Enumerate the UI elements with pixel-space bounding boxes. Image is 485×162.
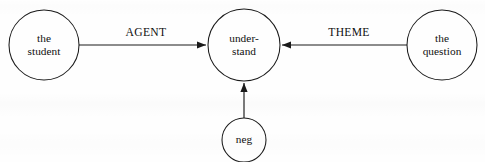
diagram-canvas: AGENTTHEMEthestudentunder-standthequesti… <box>0 0 485 162</box>
edge-agent-arrowhead <box>197 41 206 48</box>
node-student-circle <box>9 10 79 80</box>
node-neg-circle <box>222 118 266 162</box>
node-understand-circle <box>208 9 280 81</box>
edges-group <box>79 41 407 118</box>
graph-svg <box>0 0 485 162</box>
edge-theme-arrowhead <box>282 41 291 48</box>
edge-neg-arrowhead <box>240 83 247 92</box>
node-question-circle <box>407 10 477 80</box>
